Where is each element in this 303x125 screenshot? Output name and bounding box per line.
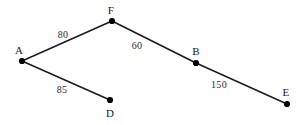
graph-node-d (107, 97, 113, 103)
node-label-e: E (283, 87, 290, 98)
node-label-a: A (15, 45, 23, 56)
edge-weight-label-f-b: 60 (132, 41, 143, 51)
graph-edge-a-f (22, 21, 112, 61)
node-label-d: D (106, 108, 114, 119)
graph-node-f (109, 18, 115, 24)
graph-node-a (19, 58, 25, 64)
node-label-b: B (192, 46, 200, 57)
graph-edge-f-b (112, 21, 196, 63)
graph-edge-b-e (196, 63, 287, 104)
graph-node-b (193, 60, 199, 66)
graph-canvas (0, 0, 303, 125)
graph-diagram: 806015085 AFBED (0, 0, 303, 125)
graph-node-e (284, 101, 290, 107)
edge-weight-label-a-f: 80 (58, 30, 69, 40)
node-label-f: F (108, 5, 114, 16)
edge-weight-label-a-d: 85 (57, 85, 68, 95)
edge-weight-label-b-e: 150 (211, 80, 227, 90)
